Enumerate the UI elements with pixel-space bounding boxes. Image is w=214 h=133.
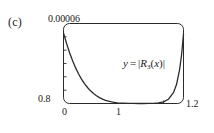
plot-area bbox=[0, 0, 214, 133]
annotation-bar-close: | bbox=[163, 57, 165, 69]
annotation-subscript: 3 bbox=[147, 63, 151, 71]
figure-panel-c: (c) 0.00006 0.8 0 1 1.2 y=|R3(x)| bbox=[0, 0, 214, 133]
annotation-equals: = bbox=[130, 57, 136, 69]
curve-annotation: y=|R3(x)| bbox=[123, 57, 165, 69]
annotation-lhs: y bbox=[123, 57, 128, 69]
